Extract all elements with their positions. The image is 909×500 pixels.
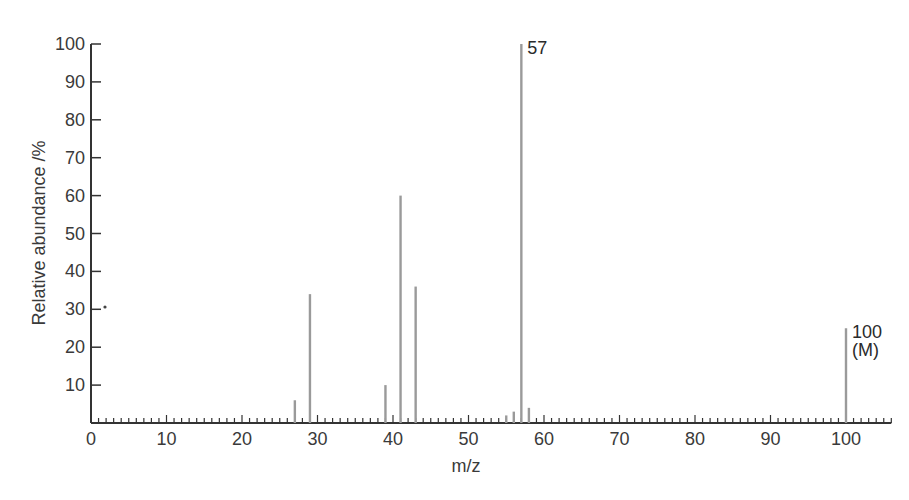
x-tick-label: 80 [685, 429, 705, 449]
stray-mark [103, 305, 106, 308]
y-tick-label: 50 [65, 224, 85, 244]
molecular-ion-label: (M) [852, 340, 879, 360]
x-axis-title: m/z [452, 456, 481, 476]
y-tick-label: 10 [65, 375, 85, 395]
svg-text:Relative abundance /%: Relative abundance /% [29, 140, 49, 325]
x-tick-label: 70 [609, 429, 629, 449]
y-tick-label: 90 [65, 72, 85, 92]
x-tick-label: 10 [156, 429, 176, 449]
mass-spectrum-chart: Relative abundance /% m/z 10203040506070… [0, 0, 909, 500]
y-tick-label: 80 [65, 110, 85, 130]
peak-label-100: 100 [852, 322, 882, 342]
x-tick-label: 100 [831, 429, 861, 449]
y-tick-label: 100 [55, 34, 85, 54]
y-tick-label: 30 [65, 299, 85, 319]
x-tick-label: 30 [307, 429, 327, 449]
x-tick-label: 90 [760, 429, 780, 449]
y-tick-label: 20 [65, 337, 85, 357]
peak-label-57: 57 [527, 38, 547, 58]
peak-annotations: 57100(M) [527, 38, 882, 360]
y-axis: 102030405060708090100 [55, 34, 101, 423]
y-tick-label: 70 [65, 148, 85, 168]
y-axis-title: Relative abundance /% [29, 140, 49, 325]
y-tick-label: 40 [65, 261, 85, 281]
y-tick-label: 60 [65, 186, 85, 206]
peaks-group [295, 44, 846, 423]
x-axis: 0102030405060708090100 [86, 415, 891, 449]
x-tick-label: 60 [534, 429, 554, 449]
x-tick-label: 0 [86, 429, 96, 449]
x-tick-label: 40 [383, 429, 403, 449]
x-tick-label: 20 [232, 429, 252, 449]
x-tick-label: 50 [458, 429, 478, 449]
